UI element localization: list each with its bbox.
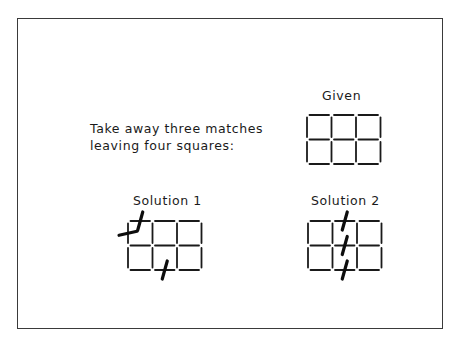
figure-frame (17, 18, 443, 329)
given-match-grid (306, 114, 382, 164)
instruction-line-1: Take away three matches (90, 120, 263, 137)
solution-1-title: Solution 1 (133, 193, 202, 208)
given-title: Given (322, 88, 361, 103)
solution-2-match-grid (307, 220, 383, 270)
instruction-line-2: leaving four squares: (90, 137, 263, 154)
solution-2-title: Solution 2 (311, 193, 380, 208)
instruction-text: Take away three matches leaving four squ… (90, 120, 263, 154)
solution-1-match-grid (127, 220, 203, 270)
